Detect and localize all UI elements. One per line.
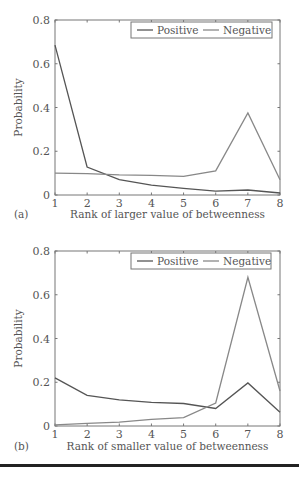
y-tick-label: 0.6 — [33, 58, 51, 71]
y-tick-label: 0.8 — [33, 14, 51, 27]
legend-label-positive: Positive — [157, 255, 198, 267]
figure: 1234567800.20.40.60.8PositiveNegativeRan… — [0, 0, 299, 481]
x-axis-title: Rank of smaller value of betweenness — [67, 440, 269, 452]
series-line-negative — [55, 113, 280, 180]
bottom-rule — [0, 464, 299, 467]
legend-label-negative: Negative — [223, 255, 271, 267]
y-tick-label: 0.4 — [33, 102, 51, 115]
legend-label-negative: Negative — [223, 24, 271, 36]
x-tick-label: 1 — [52, 428, 59, 441]
y-tick-label: 0.2 — [33, 376, 51, 389]
y-axis-title: Probability — [12, 309, 24, 367]
plot-frame — [55, 20, 280, 195]
y-tick-label: 0.4 — [33, 333, 51, 346]
chart-panel-a: 1234567800.20.40.60.8PositiveNegativeRan… — [12, 14, 284, 220]
x-tick-label: 8 — [277, 428, 284, 441]
plot-frame — [55, 251, 280, 426]
x-tick-label: 1 — [52, 197, 59, 210]
y-tick-label: 0.2 — [33, 145, 51, 158]
y-axis-title: Probability — [12, 78, 24, 136]
legend: PositiveNegative — [131, 22, 272, 38]
chart-panel-b: 1234567800.20.40.60.8PositiveNegativeRan… — [12, 245, 284, 452]
panel-label: (a) — [14, 208, 28, 220]
legend: PositiveNegative — [131, 253, 271, 269]
panel-label: (b) — [14, 440, 29, 452]
series-line-positive — [55, 45, 280, 193]
x-axis-title: Rank of larger value of betweenness — [70, 208, 265, 220]
legend-label-positive: Positive — [157, 24, 198, 36]
y-tick-label: 0.6 — [33, 289, 51, 302]
y-tick-label: 0.8 — [33, 245, 51, 258]
x-tick-label: 8 — [277, 197, 284, 210]
y-tick-label: 0 — [43, 420, 50, 433]
y-tick-label: 0 — [43, 189, 50, 202]
series-line-positive — [55, 378, 280, 412]
